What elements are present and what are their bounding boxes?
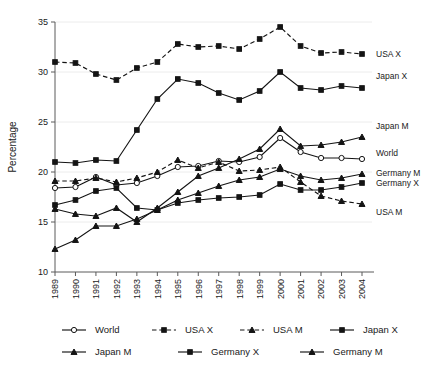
marker-square-usa-x-2004 — [360, 52, 365, 57]
marker-square-germany-x-1993 — [135, 206, 140, 211]
marker-square-japan-x-1996 — [196, 81, 201, 86]
marker-circle-world-2001 — [298, 149, 303, 154]
marker-triangle-japan-m-2004 — [359, 134, 365, 139]
x-tick-label-1993: 1993 — [132, 279, 142, 299]
marker-square-germany-x-1989 — [53, 203, 58, 208]
marker-circle-world-1995 — [175, 164, 180, 169]
edge-label-japan-m: Japan M — [376, 121, 409, 131]
x-tick-label-1989: 1989 — [50, 279, 60, 299]
marker-circle-world-1990 — [73, 184, 78, 189]
legend-label-usa-m: USA M — [273, 324, 303, 335]
line-chart: 101520253035Percentage198919901991199219… — [0, 0, 440, 372]
edge-label-world: World — [376, 148, 398, 158]
marker-square-japan-x-1998 — [237, 98, 242, 103]
marker-square-japan-x-1994 — [155, 97, 160, 102]
marker-square-germany-x-1991 — [94, 189, 99, 194]
marker-square-usa-x-1989 — [53, 60, 58, 65]
legend-label-japan-x: Japan X — [363, 324, 399, 335]
series-line-germany-x — [55, 183, 362, 210]
marker-square-germany-x-2000 — [278, 182, 283, 187]
marker-circle-world-1999 — [257, 154, 262, 159]
marker-square-japan-x-2002 — [319, 88, 324, 93]
marker-triangle-usa-m-1993 — [134, 175, 140, 180]
legend-label-japan-m: Japan M — [95, 346, 132, 357]
marker-square-germany-x-1999 — [257, 193, 262, 198]
marker-square-germany-x-2002 — [319, 188, 324, 193]
x-tick-label-1992: 1992 — [112, 279, 122, 299]
marker-triangle-usa-m-1995 — [175, 157, 181, 162]
x-tick-label-1994: 1994 — [153, 279, 163, 299]
marker-square-japan-x-1989 — [53, 160, 58, 165]
y-tick-label-20: 20 — [38, 167, 48, 177]
marker-triangle-germany-m-1993 — [134, 216, 140, 221]
marker-square-japan-x-1995 — [176, 77, 181, 82]
marker-square-legend-germany-x — [188, 350, 193, 355]
marker-square-japan-x-2004 — [360, 86, 365, 91]
marker-triangle-japan-m-1992 — [113, 205, 119, 210]
x-tick-label-2001: 2001 — [296, 279, 306, 299]
marker-triangle-germany-m-1990 — [72, 237, 78, 242]
x-tick-label-1991: 1991 — [91, 279, 101, 299]
marker-square-usa-x-1995 — [176, 42, 181, 47]
marker-square-germany-x-1998 — [237, 195, 242, 200]
marker-square-japan-x-1991 — [94, 158, 99, 163]
marker-square-japan-x-1997 — [216, 91, 221, 96]
edge-label-japan-x: Japan X — [376, 71, 408, 81]
x-tick-label-2000: 2000 — [276, 279, 286, 299]
marker-square-usa-x-1993 — [135, 66, 140, 71]
y-tick-label-35: 35 — [38, 17, 48, 27]
marker-square-japan-x-2001 — [298, 86, 303, 91]
marker-square-japan-x-1992 — [114, 159, 119, 164]
marker-circle-world-2003 — [339, 155, 344, 160]
chart-canvas: 101520253035Percentage198919901991199219… — [0, 0, 440, 372]
marker-square-usa-x-1994 — [155, 60, 160, 65]
series-line-usa-m — [55, 160, 362, 204]
marker-triangle-usa-m-1998 — [236, 168, 242, 173]
marker-circle-legend-world — [71, 327, 76, 332]
marker-circle-world-2004 — [359, 156, 364, 161]
marker-square-usa-x-2001 — [298, 44, 303, 49]
x-tick-label-2004: 2004 — [357, 279, 367, 299]
marker-square-japan-x-2000 — [278, 70, 283, 75]
marker-square-usa-x-1996 — [196, 45, 201, 50]
marker-square-usa-x-1991 — [94, 72, 99, 77]
y-tick-label-25: 25 — [38, 117, 48, 127]
marker-circle-world-2000 — [278, 135, 283, 140]
series-line-japan-m — [55, 129, 362, 222]
marker-square-legend-japan-x — [340, 328, 345, 333]
marker-triangle-japan-m-1998 — [236, 156, 242, 161]
y-tick-label-30: 30 — [38, 67, 48, 77]
marker-square-germany-x-2004 — [360, 181, 365, 186]
y-axis-title: Percentage — [7, 121, 18, 173]
marker-circle-world-1989 — [52, 185, 57, 190]
y-tick-label-10: 10 — [38, 267, 48, 277]
marker-square-usa-x-2002 — [319, 51, 324, 56]
marker-square-germany-x-1996 — [196, 198, 201, 203]
marker-square-japan-x-2003 — [339, 84, 344, 89]
legend-label-usa-x: USA X — [185, 324, 214, 335]
legend-label-world: World — [95, 324, 120, 335]
marker-square-usa-x-1997 — [216, 44, 221, 49]
marker-square-japan-x-1999 — [257, 89, 262, 94]
x-tick-label-1999: 1999 — [255, 279, 265, 299]
marker-square-legend-usa-x — [162, 328, 167, 333]
marker-triangle-usa-m-2002 — [318, 193, 324, 198]
x-tick-label-1996: 1996 — [194, 279, 204, 299]
edge-label-germany-m: Germany M — [376, 168, 420, 178]
marker-triangle-germany-m-1989 — [52, 246, 58, 251]
marker-square-usa-x-1992 — [114, 78, 119, 83]
legend-label-germany-x: Germany X — [211, 346, 260, 357]
marker-square-usa-x-2000 — [278, 25, 283, 30]
edge-label-usa-x: USA X — [376, 49, 401, 59]
marker-square-germany-x-2003 — [339, 185, 344, 190]
y-tick-label-15: 15 — [38, 217, 48, 227]
marker-square-usa-x-1999 — [257, 37, 262, 42]
marker-square-germany-x-1990 — [73, 198, 78, 203]
series-line-japan-x — [55, 72, 362, 163]
marker-circle-world-2002 — [318, 155, 323, 160]
marker-square-japan-x-1993 — [135, 128, 140, 133]
marker-triangle-japan-m-2000 — [277, 126, 283, 131]
x-tick-label-2003: 2003 — [337, 279, 347, 299]
marker-square-germany-x-1997 — [216, 196, 221, 201]
x-tick-label-1990: 1990 — [71, 279, 81, 299]
